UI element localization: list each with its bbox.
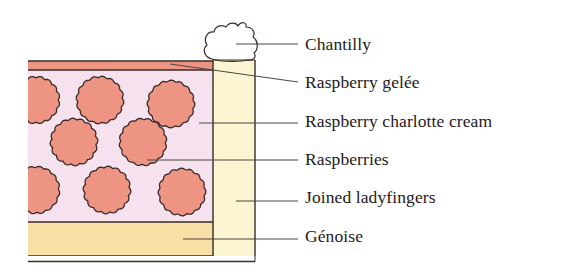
raspberry — [147, 80, 195, 128]
raspberry — [76, 76, 123, 123]
label-chantilly: Chantilly — [305, 36, 371, 54]
raspberry — [50, 118, 98, 166]
label-raspberry-charlotte-cream: Raspberry charlotte cream — [305, 113, 492, 131]
raspberry — [83, 166, 131, 214]
raspberry — [12, 166, 59, 213]
label-genoise: Génoise — [305, 228, 363, 246]
chantilly-dollop — [204, 23, 257, 62]
ladyfingers-column — [213, 60, 255, 256]
charlotte-cross-section-diagram — [0, 0, 576, 278]
raspberry — [158, 168, 206, 216]
label-raspberries: Raspberries — [305, 151, 389, 169]
base-plate — [28, 256, 255, 261]
label-raspberry-gelee: Raspberry gelée — [305, 74, 420, 92]
gelee-layer — [28, 61, 213, 70]
label-joined-ladyfingers: Joined ladyfingers — [305, 189, 436, 207]
